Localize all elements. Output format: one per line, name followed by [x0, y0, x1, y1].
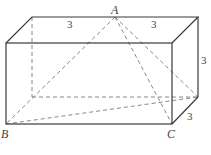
dimension-top-right: 3: [151, 18, 157, 30]
dimension-top-left: 3: [67, 18, 73, 30]
dimension-height: 3: [201, 54, 207, 66]
front-face: [6, 43, 172, 124]
vertex-label-b: B: [1, 127, 9, 141]
top-face-edges: [6, 17, 198, 43]
edge-bottom-right-depth: [172, 97, 198, 124]
vertex-label-c: C: [167, 127, 176, 141]
vertex-label-a: A: [110, 3, 119, 17]
segment-b-to-back-bottom-right: [6, 97, 198, 124]
dimension-depth: 3: [187, 110, 193, 122]
prism-diagram: A B C 3 3 3 3: [0, 0, 211, 155]
segment-ab: [6, 17, 115, 124]
segment-ac: [115, 17, 172, 124]
